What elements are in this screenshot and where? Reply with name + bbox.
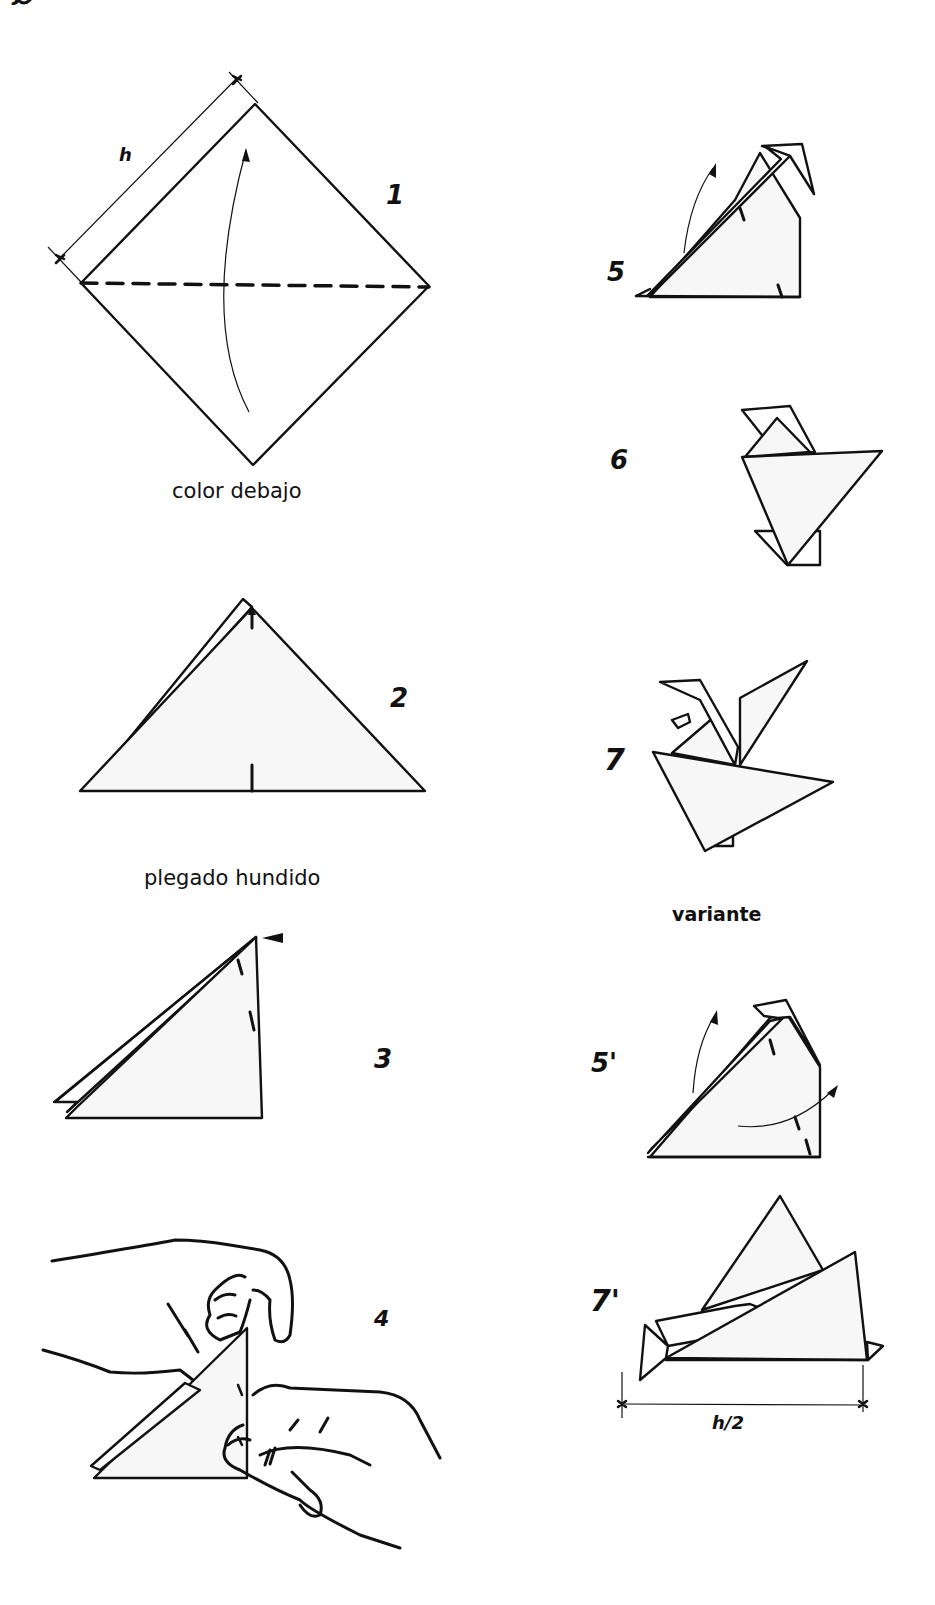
step-number-2: 2 <box>390 683 408 713</box>
step-3-diagram <box>54 933 283 1118</box>
step-number-6: 6 <box>610 445 628 475</box>
step-number-5: 5 <box>607 257 625 287</box>
corner-mark: ɟ <box>14 0 22 6</box>
variant-heading: variante <box>672 903 761 925</box>
step-number-1: 1 <box>386 180 404 210</box>
dimension-tick-icon <box>56 255 64 263</box>
dimension-label-h: h <box>119 144 132 165</box>
origami-diagram <box>0 0 935 1605</box>
arrowhead-icon <box>710 1010 718 1025</box>
step-1-caption: color debajo <box>172 479 302 503</box>
arrowhead-icon <box>709 163 716 178</box>
step-1-diagram <box>48 72 429 465</box>
sink-arrow-icon <box>262 933 283 943</box>
step-5-prime-diagram <box>648 1000 838 1157</box>
step-number-4: 4 <box>374 1306 389 1331</box>
step-3-caption: plegado hundido <box>144 866 320 890</box>
fold-arrow-icon <box>693 1015 715 1093</box>
step-6-diagram <box>742 406 882 565</box>
arrowhead-icon <box>827 1085 838 1098</box>
step-7-prime-diagram <box>618 1196 883 1418</box>
step-2-diagram <box>80 599 425 791</box>
step-number-7-prime: 7' <box>590 1283 620 1318</box>
step-4-diagram <box>43 1240 440 1548</box>
dimension-label-h-half: h/2 <box>712 1412 744 1433</box>
step-7-diagram <box>653 661 833 851</box>
step-5-diagram <box>636 144 814 297</box>
step-number-7: 7 <box>604 742 625 777</box>
step-number-5-prime: 5' <box>591 1048 617 1078</box>
step-number-3: 3 <box>374 1044 392 1074</box>
